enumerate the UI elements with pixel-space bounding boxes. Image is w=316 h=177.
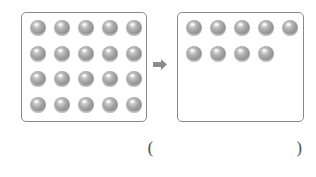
- ball: [54, 20, 70, 36]
- right-box: [177, 12, 304, 122]
- open-parenthesis: (: [147, 138, 154, 158]
- ball: [54, 46, 70, 62]
- ball: [210, 46, 226, 62]
- ball: [126, 46, 142, 62]
- ball: [234, 46, 250, 62]
- ball: [30, 71, 46, 87]
- ball: [102, 46, 118, 62]
- right-arrow-icon: [153, 59, 167, 70]
- ball: [30, 97, 46, 113]
- ball: [186, 46, 202, 62]
- ball: [30, 20, 46, 36]
- ball: [186, 20, 202, 36]
- ball-grid-right: [186, 20, 298, 62]
- ball: [126, 71, 142, 87]
- ball: [282, 20, 298, 36]
- ball: [78, 20, 94, 36]
- ball: [258, 46, 274, 62]
- ball: [78, 71, 94, 87]
- ball: [126, 97, 142, 113]
- ball: [78, 46, 94, 62]
- ball: [126, 20, 142, 36]
- close-parenthesis: ): [296, 138, 303, 158]
- ball: [102, 97, 118, 113]
- ball: [78, 97, 94, 113]
- ball: [54, 71, 70, 87]
- ball-grid-left: [30, 20, 142, 113]
- ball: [210, 20, 226, 36]
- ball: [102, 20, 118, 36]
- ball: [54, 97, 70, 113]
- ball: [30, 46, 46, 62]
- ball: [234, 20, 250, 36]
- answer-blank[interactable]: [158, 138, 294, 158]
- ball: [258, 20, 274, 36]
- ball: [102, 71, 118, 87]
- left-box: [21, 12, 147, 122]
